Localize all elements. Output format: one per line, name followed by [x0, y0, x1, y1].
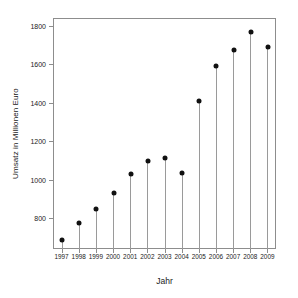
data-point[interactable]	[180, 171, 185, 176]
x-axis-label: Jahr	[53, 276, 276, 286]
data-point[interactable]	[128, 171, 133, 176]
y-tick-label: 1000	[20, 176, 46, 183]
data-point[interactable]	[248, 29, 253, 34]
y-tick-label: 1200	[20, 138, 46, 145]
y-tick-mark	[49, 180, 53, 181]
x-tick-mark	[79, 249, 80, 253]
y-tick-mark	[49, 26, 53, 27]
data-stem	[130, 174, 131, 250]
x-tick-mark	[250, 249, 251, 253]
data-point[interactable]	[231, 47, 236, 52]
data-stem	[216, 66, 217, 250]
y-tick-label: 1800	[20, 22, 46, 29]
x-tick-label: 1998	[72, 253, 86, 260]
x-tick-label: 2002	[140, 253, 154, 260]
x-tick-label: 2007	[226, 253, 240, 260]
x-tick-mark	[182, 249, 183, 253]
x-tick-label: 2000	[106, 253, 120, 260]
data-stem	[165, 158, 166, 250]
data-point[interactable]	[163, 155, 168, 160]
x-tick-mark	[233, 249, 234, 253]
chart-container: Umsatz in Millionen Euro 800100012001400…	[0, 0, 298, 298]
y-tick-label: 800	[20, 215, 46, 222]
data-stem	[147, 161, 148, 250]
y-tick-mark	[49, 141, 53, 142]
x-tick-label: 2005	[192, 253, 206, 260]
data-stem	[233, 50, 234, 250]
x-tick-mark	[199, 249, 200, 253]
data-point[interactable]	[145, 159, 150, 164]
y-tick-mark	[49, 103, 53, 104]
data-point[interactable]	[214, 63, 219, 68]
x-tick-label: 1999	[89, 253, 103, 260]
x-tick-mark	[130, 249, 131, 253]
y-tick-label: 1400	[20, 99, 46, 106]
y-axis-tick-labels: 80010001200140016001800	[16, 0, 46, 298]
x-tick-mark	[216, 249, 217, 253]
data-stem	[96, 209, 97, 250]
x-tick-label: 2004	[175, 253, 189, 260]
data-point[interactable]	[265, 45, 270, 50]
data-stem	[267, 47, 268, 250]
x-tick-mark	[96, 249, 97, 253]
x-tick-label: 2008	[243, 253, 257, 260]
data-point[interactable]	[60, 238, 65, 243]
data-point[interactable]	[111, 191, 116, 196]
data-point[interactable]	[197, 98, 202, 103]
x-tick-label: 1997	[54, 253, 68, 260]
data-point[interactable]	[77, 221, 82, 226]
x-tick-mark	[147, 249, 148, 253]
x-tick-mark	[113, 249, 114, 253]
data-stem	[79, 223, 80, 250]
data-stem	[199, 101, 200, 250]
x-tick-label: 2003	[157, 253, 171, 260]
y-tick-mark	[49, 64, 53, 65]
data-point[interactable]	[94, 206, 99, 211]
x-tick-mark	[267, 249, 268, 253]
data-stem	[250, 32, 251, 250]
y-tick-mark	[49, 218, 53, 219]
plot-area	[53, 18, 276, 249]
data-stem	[182, 173, 183, 250]
x-tick-mark	[62, 249, 63, 253]
x-tick-label: 2001	[123, 253, 137, 260]
x-tick-mark	[165, 249, 166, 253]
x-tick-label: 2009	[260, 253, 274, 260]
y-tick-label: 1600	[20, 61, 46, 68]
x-tick-label: 2006	[209, 253, 223, 260]
data-stem	[113, 193, 114, 250]
